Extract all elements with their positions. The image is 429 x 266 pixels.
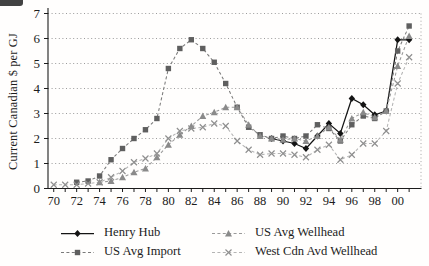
data-point-square-icon bbox=[120, 146, 125, 151]
series-line-2 bbox=[100, 36, 410, 182]
legend-label-us-avg-import: US Avg Import bbox=[104, 244, 181, 259]
data-point-x-icon bbox=[314, 147, 320, 153]
x-tick-label: 78 bbox=[139, 194, 152, 208]
x-tick-label: 86 bbox=[231, 194, 244, 208]
y-tick-label: 1 bbox=[34, 156, 41, 171]
legend-label-us-avg-wellhead: US Avg Wellhead bbox=[255, 225, 344, 240]
data-point-diamond-icon bbox=[74, 230, 80, 237]
x-tick-label: 90 bbox=[277, 194, 290, 208]
line-chart-plot: 0123456770727476788082848688909294969800 bbox=[0, 0, 429, 220]
legend-marker-us-avg-wellhead-triangle-icon bbox=[211, 227, 246, 239]
data-point-square-icon bbox=[97, 173, 102, 178]
x-tick-label: 96 bbox=[346, 194, 359, 208]
data-point-square-icon bbox=[154, 116, 159, 121]
data-point-triangle-icon bbox=[406, 33, 413, 39]
data-point-x-icon bbox=[131, 159, 137, 165]
data-point-x-icon bbox=[120, 168, 126, 174]
data-point-triangle-icon bbox=[119, 174, 126, 180]
data-point-x-icon bbox=[395, 81, 401, 87]
data-point-square-icon bbox=[166, 66, 171, 71]
data-point-square-icon bbox=[143, 127, 148, 132]
data-point-square-icon bbox=[189, 37, 194, 42]
data-point-triangle-icon bbox=[245, 121, 252, 127]
data-point-square-icon bbox=[406, 23, 411, 28]
legend-item-west-cdn-avd-wellhead: West Cdn Avd Wellhead bbox=[211, 242, 377, 261]
legend-marker-henry-hub-diamond-icon bbox=[60, 227, 95, 239]
data-point-diamond-icon bbox=[394, 36, 400, 43]
x-tick-label: 82 bbox=[185, 194, 198, 208]
data-point-x-icon bbox=[372, 141, 378, 147]
legend-label-west-cdn-avd-wellhead: West Cdn Avd Wellhead bbox=[255, 244, 377, 259]
data-point-x-icon bbox=[142, 156, 148, 162]
data-point-triangle-icon bbox=[211, 109, 218, 115]
x-tick-label: 74 bbox=[93, 194, 106, 208]
x-tick-label: 88 bbox=[254, 194, 267, 208]
data-point-x-icon bbox=[349, 152, 355, 158]
data-point-x-icon bbox=[326, 142, 332, 148]
y-tick-label: 2 bbox=[34, 131, 41, 146]
y-tick-label: 0 bbox=[34, 181, 41, 196]
x-tick-label: 94 bbox=[323, 194, 336, 208]
series-line-1 bbox=[77, 26, 409, 182]
data-point-x-icon bbox=[406, 54, 412, 60]
data-point-x-icon bbox=[223, 123, 229, 129]
y-tick-label: 7 bbox=[34, 6, 41, 21]
data-point-square-icon bbox=[212, 60, 217, 65]
data-point-square-icon bbox=[315, 122, 320, 127]
data-point-x-icon bbox=[337, 157, 343, 163]
data-point-triangle-icon bbox=[142, 165, 149, 171]
y-tick-label: 6 bbox=[34, 31, 41, 46]
legend-marker-us-avg-import-square-icon bbox=[60, 246, 95, 258]
y-tick-label: 4 bbox=[34, 81, 41, 96]
legend-item-henry-hub: Henry Hub bbox=[60, 223, 211, 242]
x-tick-label: 00 bbox=[391, 194, 404, 208]
data-point-square-icon bbox=[131, 136, 136, 141]
legend-label-henry-hub: Henry Hub bbox=[104, 225, 160, 240]
x-tick-label: 70 bbox=[47, 194, 60, 208]
data-point-x-icon bbox=[234, 138, 240, 144]
data-point-square-icon bbox=[177, 46, 182, 51]
data-point-triangle-icon bbox=[199, 113, 206, 119]
data-point-triangle-icon bbox=[360, 109, 367, 115]
y-tick-label: 5 bbox=[34, 56, 41, 71]
data-point-square-icon bbox=[75, 249, 80, 254]
data-point-square-icon bbox=[349, 122, 354, 127]
data-point-square-icon bbox=[395, 48, 400, 53]
data-point-x-icon bbox=[246, 147, 252, 153]
data-point-triangle-icon bbox=[348, 115, 355, 121]
legend-item-us-avg-import: US Avg Import bbox=[60, 242, 211, 261]
data-point-square-icon bbox=[223, 81, 228, 86]
x-tick-label: 84 bbox=[208, 194, 221, 208]
data-point-x-icon bbox=[383, 128, 389, 134]
x-tick-label: 92 bbox=[300, 194, 313, 208]
data-point-x-icon bbox=[303, 154, 309, 160]
data-point-diamond-icon bbox=[349, 95, 355, 102]
data-point-square-icon bbox=[200, 46, 205, 51]
x-tick-label: 72 bbox=[70, 194, 83, 208]
x-tick-label: 76 bbox=[116, 194, 129, 208]
x-tick-label: 80 bbox=[162, 194, 175, 208]
chart-page: Current Canadian $ per GJ 01234567707274… bbox=[0, 0, 429, 266]
data-point-square-icon bbox=[108, 157, 113, 162]
chart-legend: Henry Hub US Avg Wellhead US Avg Import … bbox=[60, 223, 377, 261]
y-tick-label: 3 bbox=[34, 106, 41, 121]
legend-marker-west-cdn-avd-wellhead-x-icon bbox=[211, 246, 246, 258]
legend-item-us-avg-wellhead: US Avg Wellhead bbox=[211, 223, 377, 242]
x-tick-label: 98 bbox=[368, 194, 381, 208]
series-line-3 bbox=[54, 57, 409, 185]
